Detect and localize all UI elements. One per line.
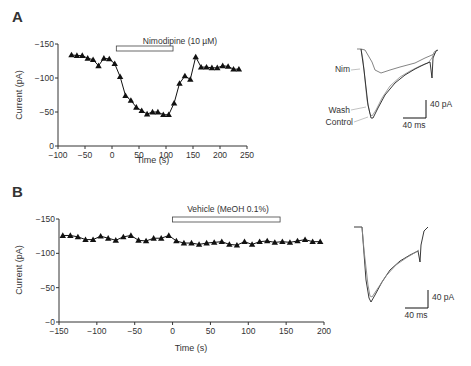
panel-a-xlabel: Time (s) — [137, 155, 170, 165]
panel-a-traces: Nim Wash Control 40 pA 40 ms — [326, 49, 453, 130]
scale-a-y: 40 pA — [430, 99, 453, 109]
scale-a-x: 40 ms — [402, 120, 425, 130]
svg-text:100: 100 — [241, 326, 255, 336]
scale-b-y: 40 pA — [432, 292, 455, 302]
scale-bar-a — [403, 100, 426, 118]
control-trace-label: Control — [326, 117, 354, 127]
svg-text:−100: −100 — [87, 326, 106, 336]
svg-text:0: 0 — [170, 326, 175, 336]
svg-text:−100: −100 — [36, 248, 55, 258]
svg-text:200: 200 — [317, 326, 331, 336]
svg-text:250: 250 — [240, 150, 254, 160]
panel-a-label: A — [12, 8, 23, 25]
svg-text:−50: −50 — [128, 326, 143, 336]
nim-trace — [357, 49, 435, 73]
panel-a-ylabel: Current (pA) — [14, 70, 24, 120]
svg-text:−150: −150 — [35, 39, 54, 49]
scale-b-x: 40 ms — [404, 310, 427, 320]
svg-text:0: 0 — [110, 150, 115, 160]
svg-text:−100: −100 — [48, 150, 67, 160]
nim-trace-label: Nim — [335, 64, 350, 74]
svg-text:−50: −50 — [78, 150, 93, 160]
svg-text:−150: −150 — [36, 214, 55, 224]
scale-bar-b — [405, 290, 428, 308]
panel-b-xlabel: Time (s) — [175, 343, 208, 353]
svg-text:−0: −0 — [45, 317, 55, 327]
svg-text:0: 0 — [49, 141, 54, 151]
panel-a-plot: −100−500501001502002500−50−100−150 — [35, 39, 255, 160]
figure: A −100−500501001502002500−50−100−150 Cur… — [0, 0, 471, 366]
svg-text:200: 200 — [213, 150, 227, 160]
svg-text:−50: −50 — [40, 107, 55, 117]
panel-b-plot: −150−100−50050100150200−0−50−100−150 — [36, 214, 332, 336]
nimodipine-label: Nimodipine (10 µM) — [143, 36, 218, 46]
svg-text:150: 150 — [279, 326, 293, 336]
panel-b-ylabel: Current (pA) — [14, 245, 24, 295]
control-trace-b — [354, 227, 428, 302]
svg-text:−50: −50 — [41, 283, 56, 293]
panel-b-label: B — [12, 183, 23, 200]
panel-b-traces: 40 pA 40 ms — [354, 227, 455, 320]
svg-text:150: 150 — [186, 150, 200, 160]
vehicle-trace-b — [362, 227, 419, 297]
svg-text:−100: −100 — [35, 73, 54, 83]
svg-text:50: 50 — [206, 326, 216, 336]
svg-text:−150: −150 — [49, 326, 68, 336]
wash-trace-label: Wash — [329, 105, 351, 115]
vehicle-label: Vehicle (MeOH 0.1%) — [187, 204, 269, 214]
